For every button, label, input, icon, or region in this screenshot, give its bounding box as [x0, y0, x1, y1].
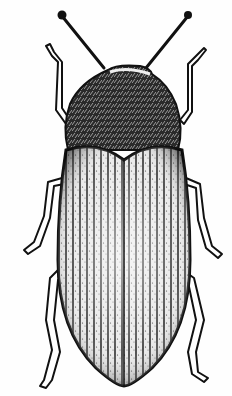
beetle-drawing [0, 0, 232, 396]
beetle-illustration: Dorsal view engraving of a beetle with s… [0, 0, 232, 396]
antenna-right [146, 16, 188, 68]
pronotum [65, 66, 180, 151]
antenna-left [62, 16, 104, 68]
